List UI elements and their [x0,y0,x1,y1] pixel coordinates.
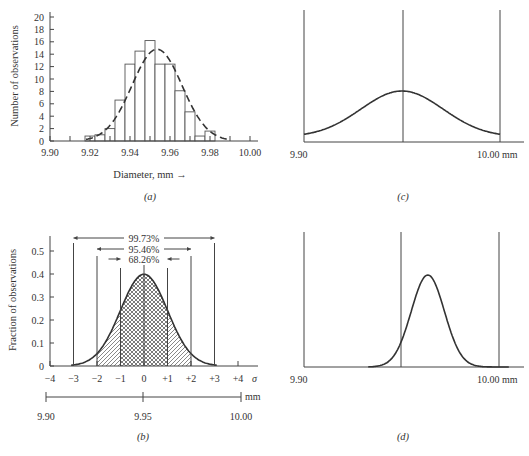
sigma-tick-label: −3 [68,373,79,384]
sigma-tick-label: +3 [209,373,220,384]
y-tick-label: 2 [39,123,44,134]
interval-label: 68.26% [129,254,160,265]
y-tick-label: 4 [39,111,44,122]
y-tick-label: 6 [39,98,44,109]
y-tick-label: 0.3 [32,292,45,303]
histogram-bars [85,41,215,141]
panel-caption-d: (d) [397,431,410,443]
y-ticks: 00.10.20.30.40.5 [32,246,55,372]
panel-b-normal-distribution: 00.10.20.30.40.5 −4−3−2−10+1+2+3+4σ 68.2… [7,233,261,444]
y-tick-label: 0.4 [32,269,45,280]
y-axis-label: Number of observations [9,25,20,126]
histogram-bar [175,91,185,141]
interval-label: 95.46% [129,244,160,255]
y-tick-label: 8 [39,86,44,97]
histogram-bar [145,41,155,141]
sigma-tick-label: −1 [115,373,126,384]
mm-label-9.95: 9.95 [134,411,152,422]
histogram-bar [115,100,125,141]
panel-caption-a: (a) [144,191,157,203]
y-tick-label: 14 [34,49,44,60]
distribution-curve [368,275,509,367]
y-tick-label: 12 [34,61,44,72]
y-tick-label: 16 [34,36,44,47]
sigma-tick-label: −2 [92,373,103,384]
y-axis-label: Fraction of observations [7,249,18,351]
x-tick-label: 9.96 [161,147,179,158]
y-tick-label: 0 [39,136,44,147]
panel-a-histogram: 02468101214161820 9.909.929.949.969.9810… [9,12,261,204]
histogram-bar [195,136,205,141]
x-label-min: 9.90 [290,149,308,160]
x-axis-label: Diameter, mm → [113,169,186,180]
x-label-max: 10.00 mm [477,374,518,385]
y-tick-label: 0 [39,361,44,372]
sigma-tick-label: 0 [142,373,147,384]
x-tick-label: 9.92 [81,147,99,158]
x-label-max: 10.00 mm [477,149,518,160]
y-tick-label: 18 [34,24,44,35]
y-tick-label: 0.1 [32,338,45,349]
sigma-tick-label: +2 [186,373,197,384]
histogram-bar [135,51,145,141]
y-ticks: 02468101214161820 [34,12,54,147]
panel-c-wide-distribution: 9.90 10.00 mm (c) [290,10,524,203]
panel-caption-c: (c) [397,191,409,203]
panel-caption-b: (b) [137,431,150,443]
sigma-tick-label: +4 [233,373,244,384]
y-tick-label: 20 [34,12,44,23]
distribution-curve [304,91,500,134]
sigma-tick-label: +1 [162,373,173,384]
panel-d-shifted-distribution: 9.90 10.00 mm (d) [290,232,524,443]
percent-interval-arrows: 68.26%95.46%99.73% [74,233,215,265]
sigma-tick-label: −4 [45,373,56,384]
y-tick-label: 0.5 [32,246,45,257]
x-tick-label: 9.94 [121,147,139,158]
x-tick-label: 9.98 [201,147,219,158]
y-tick-label: 0.2 [32,315,45,326]
sigma-symbol: σ [252,373,258,384]
figure-canvas: 02468101214161820 9.909.929.949.969.9810… [0,0,529,456]
mm-label-10.00: 10.00 [230,411,253,422]
x-tick-label: 9.90 [41,147,59,158]
histogram-bar [165,64,175,141]
mm-label-9.90: 9.90 [37,411,55,422]
interval-label: 99.73% [129,233,160,244]
x-label-min: 9.90 [290,374,308,385]
histogram-bar [155,64,165,141]
histogram-bar [125,64,135,141]
x-tick-label: 10.00 [239,147,262,158]
mm-unit-label: mm [245,391,261,402]
y-tick-label: 10 [34,74,44,85]
